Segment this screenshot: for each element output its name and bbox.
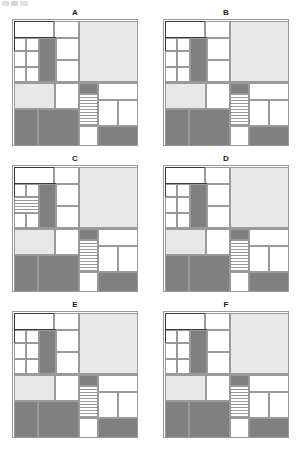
region-left-small-white-4	[26, 343, 39, 359]
region-mid-left-dark-column	[190, 38, 207, 82]
panel-d: D	[163, 154, 289, 292]
region-left-small-white-5	[165, 213, 177, 228]
accent-horizontal-split	[165, 82, 289, 83]
region-left-small-white-6	[26, 213, 39, 228]
region-center-white-tall	[56, 330, 79, 352]
region-upper-right-large-light	[230, 313, 289, 374]
region-left-small-white-5	[14, 213, 26, 228]
region-center-white-tall	[56, 184, 79, 206]
region-left-small-white-6	[177, 67, 190, 82]
region-top-left-white-a	[165, 167, 205, 184]
region-right-mid-white	[249, 229, 289, 246]
region-lower-mid-white	[55, 229, 79, 255]
region-left-small-white-3	[165, 343, 177, 359]
accent-top-left	[14, 21, 54, 22]
accent-left-upper	[165, 167, 166, 184]
region-bottom-right-dark	[98, 126, 138, 146]
region-left-small-white-4	[26, 51, 39, 67]
region-center-white-lower	[56, 206, 79, 228]
region-upper-right-large-light	[79, 21, 138, 82]
region-bottom-left-dark-2	[38, 401, 79, 438]
panel-f: F	[163, 300, 289, 438]
region-lower-left-light	[165, 83, 206, 109]
region-left-small-white-3	[14, 51, 26, 67]
plan-b	[163, 19, 289, 146]
region-right-white-1	[249, 100, 269, 126]
region-left-small-white-3	[165, 197, 177, 213]
accent-horizontal-split	[165, 374, 289, 375]
accent-left-upper	[14, 313, 15, 330]
accent-mid-band	[14, 183, 56, 184]
region-top-left-white-a	[14, 167, 54, 184]
region-left-small-white-6	[26, 359, 39, 374]
region-bottom-left-dark-1	[165, 255, 189, 292]
region-left-small-white-4	[177, 343, 190, 359]
region-top-left-white-a	[165, 313, 205, 330]
region-top-left-white-b	[205, 313, 230, 330]
region-right-white-1	[98, 246, 118, 272]
accent-mid-band	[165, 37, 207, 38]
accent-horizontal-split	[14, 374, 138, 375]
region-bottom-left-dark-2	[189, 401, 230, 438]
accent-left-mid	[165, 38, 166, 51]
region-center-white-lower	[56, 60, 79, 82]
region-ladder-head-dark	[79, 229, 98, 240]
region-bottom-left-dark-2	[38, 255, 79, 292]
region-upper-right-large-light	[79, 167, 138, 228]
region-top-left-white-a	[14, 21, 54, 38]
region-left-small-white-5	[14, 359, 26, 374]
region-left-small-white-2	[177, 330, 190, 343]
region-lower-left-light	[14, 229, 55, 255]
accent-left-mid	[165, 330, 166, 343]
region-lower-left-light	[14, 83, 55, 109]
region-bottom-right-dark	[249, 272, 289, 292]
region-bottom-left-dark-2	[38, 109, 79, 146]
accent-horizontal-split	[165, 228, 289, 229]
region-upper-right-large-light	[230, 21, 289, 82]
region-ladder-stair	[79, 94, 98, 126]
panel-label-a: A	[12, 8, 138, 18]
region-left-small-white-1	[165, 38, 177, 51]
region-ladder-stair	[230, 94, 249, 126]
region-bottom-left-dark-1	[14, 109, 38, 146]
plan-d	[163, 165, 289, 292]
region-mid-left-dark-column	[190, 184, 207, 228]
accent-mid-band	[165, 183, 207, 184]
region-left-small-white-2	[26, 330, 39, 343]
region-right-white-1	[249, 392, 269, 418]
region-bottom-left-dark-2	[189, 255, 230, 292]
region-center-white-tall	[56, 38, 79, 60]
region-bottom-left-dark-1	[14, 401, 38, 438]
region-lower-mid-white	[206, 229, 230, 255]
region-bottom-left-dark-1	[165, 401, 189, 438]
region-mid-left-dark-column	[190, 330, 207, 374]
region-left-small-white-6	[26, 67, 39, 82]
region-right-white-2	[269, 246, 289, 272]
accent-mid-band	[14, 329, 56, 330]
region-left-small-white-3	[165, 51, 177, 67]
accent-left-upper	[165, 313, 166, 330]
region-center-white-lower	[207, 60, 230, 82]
region-left-small-white-5	[165, 67, 177, 82]
region-left-small-white-2	[177, 184, 190, 197]
region-lower-left-light	[14, 375, 55, 401]
region-lower-mid-white	[206, 83, 230, 109]
region-ladder-stair	[230, 386, 249, 418]
panel-e: E	[12, 300, 138, 438]
region-right-mid-white	[249, 83, 289, 100]
region-left-small-white-2	[26, 184, 39, 197]
region-right-white-2	[118, 100, 138, 126]
accent-top-left	[165, 167, 205, 168]
panel-label-c: C	[12, 154, 138, 164]
region-ladder-head-dark	[230, 83, 249, 94]
region-top-left-white-b	[205, 167, 230, 184]
region-mid-left-dark-column	[39, 330, 56, 374]
region-bottom-right-dark	[98, 418, 138, 438]
accent-left-upper	[14, 21, 15, 38]
region-right-mid-white	[98, 83, 138, 100]
plan-e	[12, 311, 138, 438]
accent-mid-band	[14, 37, 56, 38]
region-right-mid-white	[98, 375, 138, 392]
region-ladder-foot-white	[79, 272, 98, 292]
region-top-left-white-b	[54, 21, 79, 38]
